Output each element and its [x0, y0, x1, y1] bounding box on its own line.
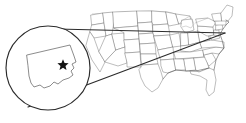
magnifier-callout-svg — [0, 0, 246, 123]
magnifier-ray-upper — [57, 29, 225, 33]
map-figure: Map of the contiguous United States with… — [0, 0, 246, 123]
